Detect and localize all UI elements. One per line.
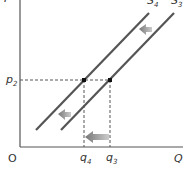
shift-arrow-icon bbox=[58, 109, 71, 120]
equilibrium-point-s4 bbox=[82, 78, 86, 82]
s3-sub: 3 bbox=[178, 1, 182, 9]
s3-label: S3 bbox=[171, 0, 182, 9]
q3-sub: 3 bbox=[113, 158, 117, 166]
p2-sub: 2 bbox=[13, 80, 17, 88]
origin-label: O bbox=[8, 152, 17, 165]
supply-curve-s4 bbox=[36, 13, 149, 130]
supply-curve-s3 bbox=[61, 13, 174, 130]
q4-base: q bbox=[80, 151, 87, 164]
shift-arrow-icon bbox=[85, 131, 109, 143]
shift-arrow-icon bbox=[139, 24, 152, 35]
s4-label: S4 bbox=[147, 0, 158, 9]
equilibrium-point-s3 bbox=[108, 78, 112, 82]
supply-shift-chart: P O Q p2 q4 q3 S4 S3 bbox=[0, 0, 187, 175]
q3-label: q3 bbox=[106, 151, 117, 166]
y-axis-label: P bbox=[4, 0, 11, 5]
s3-base: S bbox=[171, 0, 178, 7]
q4-sub: 4 bbox=[87, 158, 91, 166]
x-axis-label: Q bbox=[174, 152, 183, 165]
p2-label: p2 bbox=[6, 73, 17, 88]
q3-base: q bbox=[106, 151, 113, 164]
chart-canvas bbox=[0, 0, 187, 175]
p2-base: p bbox=[6, 73, 13, 86]
q4-label: q4 bbox=[80, 151, 91, 166]
s4-sub: 4 bbox=[154, 1, 158, 9]
s4-base: S bbox=[147, 0, 154, 7]
